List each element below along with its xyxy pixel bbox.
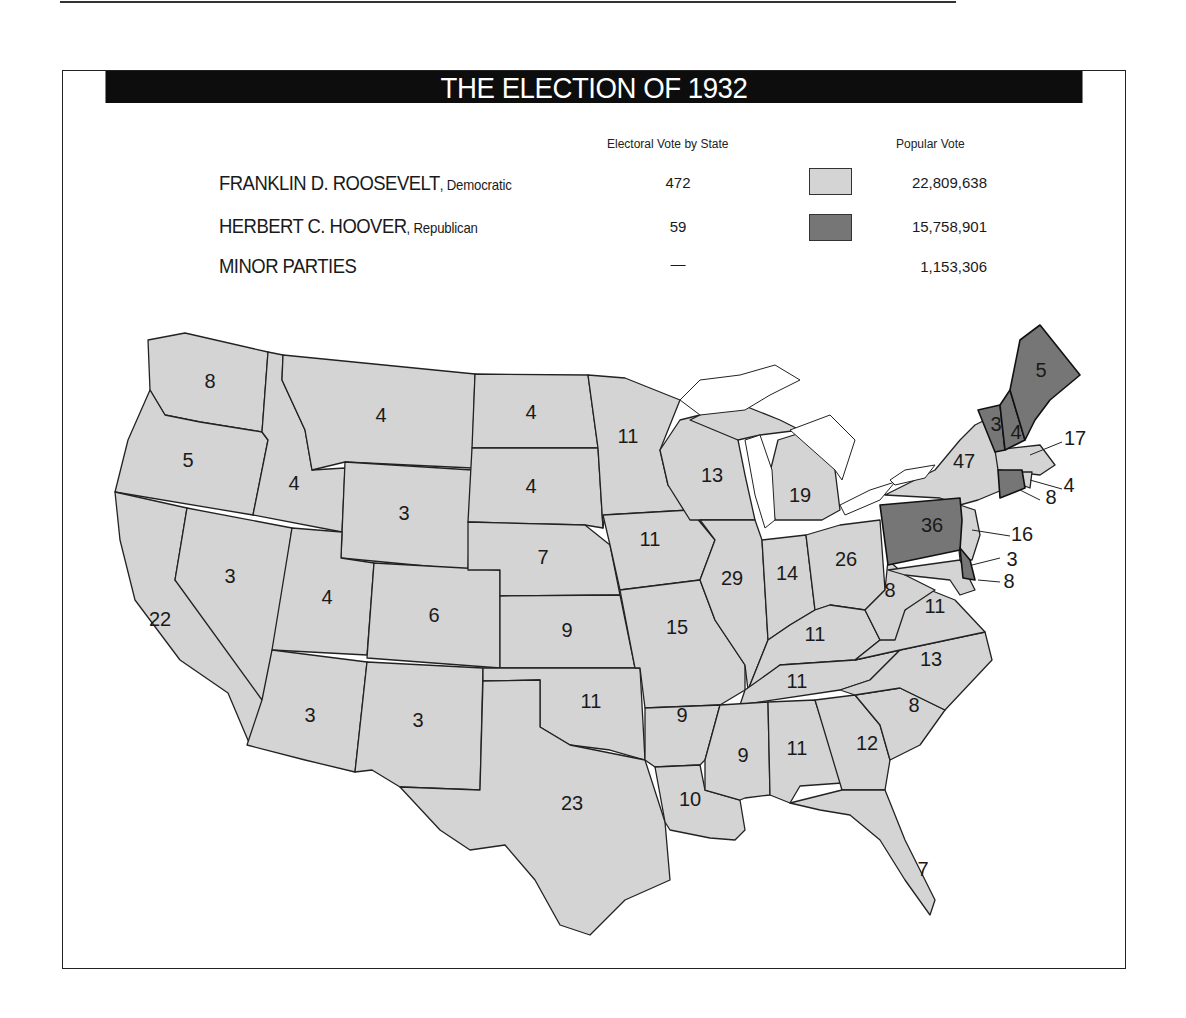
ev-label-WV: 8 [884,579,895,601]
ev-label-MO: 15 [666,616,688,638]
ev-label-AZ: 3 [304,704,315,726]
ev-label-MN: 11 [618,425,639,447]
ev-label-NM: 3 [412,709,423,731]
ev-label-NY: 47 [953,450,975,472]
ev-label-LA: 10 [679,788,701,810]
ev-label-UT: 4 [321,586,332,608]
ev-label-SD: 4 [525,475,536,497]
ev-label-RI: 4 [1063,474,1074,496]
ev-label-KS: 9 [561,619,572,641]
ev-label-ND: 4 [525,401,536,423]
ev-label-WA: 8 [204,370,215,392]
ev-label-OH: 26 [835,548,857,570]
ev-label-NV: 3 [224,565,235,587]
ev-label-MS: 9 [737,744,748,766]
ev-label-CO: 6 [428,604,439,626]
ev-label-MA: 17 [1064,427,1086,449]
ev-label-IL: 29 [721,567,743,589]
ev-label-DE: 3 [1006,548,1017,570]
ev-label-OK: 11 [581,690,602,712]
lake-superior [680,365,800,415]
ev-label-OR: 5 [182,449,193,471]
ev-label-WY: 3 [398,502,409,524]
ev-label-IN: 14 [776,562,798,584]
ev-label-TX: 23 [561,792,583,814]
ev-label-SC: 8 [908,694,919,716]
ev-label-FL: 7 [917,858,928,880]
ev-label-CT: 8 [1045,486,1056,508]
ev-label-VA: 11 [925,595,946,617]
state-NY [885,415,1002,505]
ev-label-PA: 36 [921,514,943,536]
ev-label-AL: 11 [787,737,808,759]
ev-label-ME: 5 [1035,359,1046,381]
ev-label-GA: 12 [856,732,878,754]
ev-label-CA: 22 [149,608,171,630]
ev-label-IA: 11 [640,528,661,550]
ev-label-NJ: 16 [1011,523,1033,545]
ev-label-MT: 4 [375,404,386,426]
ev-label-VT: 3 [990,413,1001,435]
ev-label-NE: 7 [537,546,548,568]
ev-label-TN: 11 [787,670,808,692]
state-FL [790,790,935,915]
ev-label-NC: 13 [920,648,942,670]
ev-label-MI: 19 [789,484,811,506]
ev-label-AR: 9 [676,704,687,726]
us-electoral-map: 8 5 22 4 3 4 3 4 3 6 3 4 4 7 9 11 23 11 … [0,0,1186,1018]
ev-label-MD: 8 [1003,570,1014,592]
ev-label-WI: 13 [701,464,723,486]
ev-label-ID: 4 [288,472,299,494]
state-CT [998,470,1025,498]
ev-label-NH: 4 [1010,421,1021,443]
ev-label-KY: 11 [805,623,826,645]
